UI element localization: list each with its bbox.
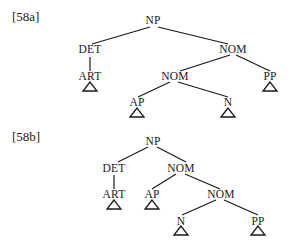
triangle-icon [221,108,235,117]
triangle-icon [107,200,121,209]
node-pp: PP [251,215,264,227]
triangle-icon [251,226,265,235]
tree-edges [0,0,296,245]
triangle-icon [130,108,144,117]
node-det: DET [103,162,126,174]
node-nom: NOM [219,43,246,55]
triangle-icon [263,82,277,91]
node-np: NP [145,135,160,147]
node-nom-inner: NOM [161,70,188,82]
triangle-icon [145,200,159,209]
node-nom-inner: NOM [207,188,234,200]
example-label: [58b] [12,130,40,144]
node-art: ART [103,188,126,200]
node-pp: PP [263,70,276,82]
node-art: ART [79,70,102,82]
node-np: NP [145,14,160,26]
node-ap: AP [129,96,144,108]
node-n: N [177,215,186,227]
node-nom: NOM [167,162,194,174]
node-n: N [224,96,233,108]
node-det: DET [79,43,102,55]
node-ap: AP [144,188,159,200]
triangle-icon [174,226,188,235]
triangle-icon [83,82,97,91]
